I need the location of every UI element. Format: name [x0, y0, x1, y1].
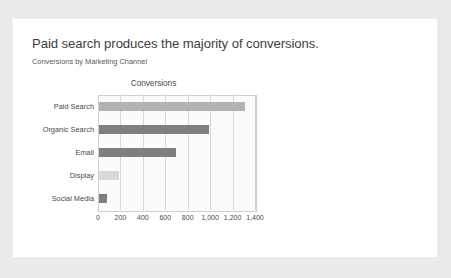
tick-label: 1,400	[246, 214, 264, 221]
bar-row	[99, 164, 119, 187]
bar-row	[99, 187, 107, 210]
category-label: Paid Search	[0, 102, 94, 111]
tick-label: 400	[137, 214, 149, 221]
category-label: Organic Search	[0, 125, 94, 134]
tick-label: 200	[115, 214, 127, 221]
bar-row	[99, 141, 176, 164]
bar	[99, 194, 107, 203]
tick-label: 1,000	[201, 214, 219, 221]
gridline	[255, 95, 256, 210]
bar-row	[99, 118, 209, 141]
bar	[99, 148, 176, 157]
slide-title: Paid search produces the majority of con…	[32, 36, 319, 51]
bar	[99, 171, 119, 180]
category-label: Social Media	[0, 194, 94, 203]
tick-label: 1,200	[224, 214, 242, 221]
tick-label: 0	[96, 214, 100, 221]
category-label: Display	[0, 171, 94, 180]
tick-label: 800	[182, 214, 194, 221]
bar-chart: Conversions Paid SearchOrganic SearchEma…	[32, 79, 282, 239]
chart-title: Conversions	[32, 79, 275, 88]
slide-card: Paid search produces the majority of con…	[12, 18, 438, 258]
category-label: Email	[0, 148, 94, 157]
bar	[99, 102, 245, 111]
bar	[99, 125, 209, 134]
tick-label: 600	[159, 214, 171, 221]
bar-row	[99, 95, 245, 118]
slide-subtitle: Conversions by Marketing Channel	[32, 57, 147, 66]
